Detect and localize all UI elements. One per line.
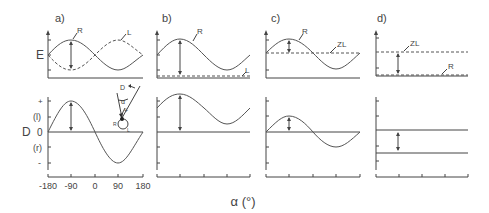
x-axis-label: α (°) (231, 194, 256, 209)
svg-text:+: + (38, 97, 43, 106)
svg-text:-: - (38, 158, 41, 168)
svg-text:90: 90 (113, 181, 123, 191)
svg-text:R: R (77, 26, 83, 35)
svg-text:R: R (197, 27, 203, 36)
svg-text:+: + (124, 107, 128, 114)
inset-diagram: D α + R L (113, 84, 140, 133)
figure: a) E R L + (l) D 0 (r) - -180 -90 (0, 0, 489, 213)
svg-text:L: L (245, 66, 250, 75)
svg-text:R: R (448, 62, 454, 71)
svg-text:0: 0 (37, 127, 43, 138)
curve-d (157, 94, 250, 124)
panel-c: c) R ZL (264, 12, 360, 177)
svg-text:R: R (113, 121, 117, 127)
svg-text:-90: -90 (64, 181, 77, 191)
panel-b: b) R L (155, 12, 250, 177)
svg-text:L: L (127, 28, 132, 37)
svg-text:-180: -180 (39, 181, 57, 191)
svg-text:(r): (r) (33, 143, 42, 153)
svg-text:ZL: ZL (410, 39, 420, 48)
curve-r (157, 39, 250, 70)
panel-label: d) (377, 12, 387, 24)
arrow-icon (46, 30, 50, 35)
panel-d: d) ZL R (374, 12, 468, 177)
svg-text:(l): (l) (33, 112, 41, 122)
svg-text:D: D (120, 84, 125, 91)
svg-text:L: L (127, 127, 130, 133)
svg-text:0: 0 (92, 181, 97, 191)
panel-label: c) (271, 12, 280, 24)
svg-text:180: 180 (135, 181, 150, 191)
svg-text:α: α (121, 98, 125, 105)
panel-label: a) (55, 12, 65, 24)
panel-label: b) (162, 12, 172, 24)
panel-a: a) E R L + (l) D 0 (r) - -180 -90 (22, 12, 151, 191)
svg-text:R: R (302, 27, 308, 36)
y-label-e: E (36, 48, 44, 62)
svg-text:ZL: ZL (337, 40, 347, 49)
y-label-d: D (22, 125, 31, 139)
